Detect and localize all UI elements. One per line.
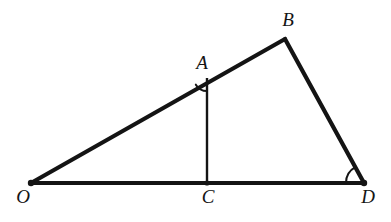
segment-BD: [285, 39, 364, 183]
geometry-canvas: O A B C D: [0, 0, 391, 222]
vertex-dot-O: [28, 180, 34, 186]
vertex-dot-D: [361, 180, 367, 186]
vertex-dot-C: [204, 180, 209, 185]
vertex-label-A: A: [194, 52, 208, 73]
vertex-label-B: B: [282, 9, 294, 30]
angle-arc-at-D: [346, 167, 355, 183]
segment-OB: [31, 39, 285, 183]
geometry-figure: O A B C D: [0, 0, 391, 222]
vertex-label-D: D: [360, 186, 375, 207]
vertex-label-C: C: [202, 186, 215, 207]
vertex-label-O: O: [16, 186, 30, 207]
